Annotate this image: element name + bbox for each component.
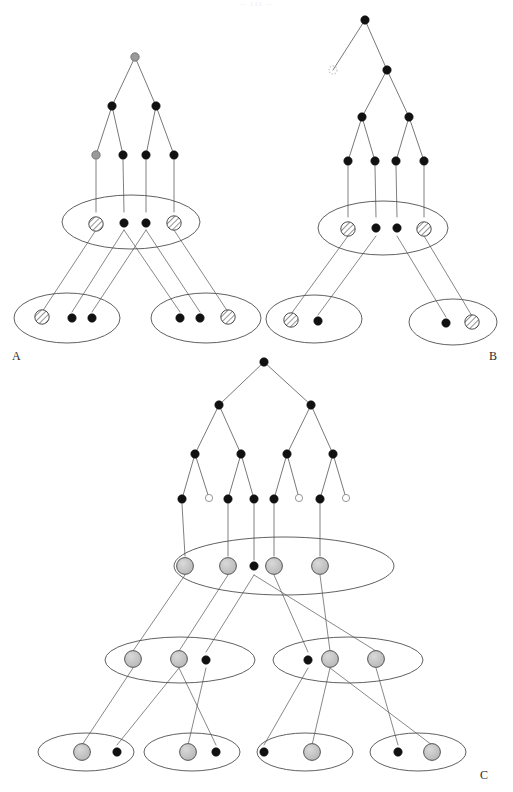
pc-bottom-node-7-circle-gray [424, 744, 441, 761]
pc-bottom-node-6-filled [394, 748, 402, 756]
pc-top-node-3-circle-gray [266, 558, 283, 575]
pa-tree-edge-1 [135, 57, 156, 106]
pc-tree-edge-12 [320, 454, 333, 499]
pc-tree-edge-6 [182, 454, 195, 499]
pc-mid-node-5-circle-gray [368, 651, 385, 668]
pb-tree-node-3-filled [405, 113, 413, 121]
pa-top-node-3-hatched [167, 216, 181, 230]
pa-drop-line-1 [123, 160, 124, 212]
pc-bottom-edge-7 [330, 668, 432, 745]
pa-bottom-node-0-hatched [35, 310, 49, 324]
figure-root: — 111 — A B C [0, 0, 513, 792]
pc-tree-edge-11 [287, 454, 299, 498]
pc-tree-l3-3-filled [329, 450, 337, 458]
pa-bottom-node-5-hatched [221, 310, 235, 324]
pc-tree-leaf-7-open [342, 494, 349, 501]
pc-drop-line-0 [182, 504, 185, 556]
pc-bottom-ellipse-3 [370, 733, 466, 771]
pc-tree-leaf-0-filled [178, 495, 186, 503]
pb-drop-line-1 [375, 166, 376, 217]
pc-mid-edge-4 [320, 575, 330, 651]
pa-cross-edge-5 [174, 230, 228, 312]
pa-tree-leaf-1-filled [119, 151, 127, 159]
pc-mid-node-1-circle-gray [171, 651, 188, 668]
pc-top-node-2-filled [250, 562, 258, 570]
pb-tree-root-filled [361, 16, 369, 24]
pc-mid-node-0-circle-gray [125, 651, 142, 668]
pa-bottom-node-1-filled [68, 314, 76, 322]
pb-top-node-2-filled [393, 224, 401, 232]
pb-tree-node-1-filled [383, 66, 391, 74]
pc-tree-l3-1-filled [237, 450, 245, 458]
pc-mid-edge-2 [206, 575, 254, 652]
pa-cross-edge-3 [124, 230, 180, 312]
pb-top-node-1-filled [372, 224, 380, 232]
pa-top-node-0-hatched [89, 217, 103, 231]
pc-tree-l3-0-filled [191, 450, 199, 458]
pc-top-node-4-circle-gray [312, 558, 329, 575]
pc-tree-root-filled [260, 358, 268, 366]
page-header-fragment: — 111 — [0, 0, 513, 11]
pa-tree-leaf-3-filled [170, 151, 178, 159]
pa-bottom-ellipse-1 [151, 293, 261, 343]
pc-mid-ellipse-1 [273, 637, 423, 683]
pc-bottom-edge-1 [117, 668, 179, 745]
pc-mid-edge-0 [133, 575, 185, 651]
pa-tree-l2-1-filled [152, 102, 160, 110]
pb-bottom-node-3-hatched [465, 315, 479, 329]
pb-tree-leaf-3-filled [420, 157, 428, 165]
pb-cross-edge-1 [318, 236, 376, 315]
pb-top-node-3-hatched [417, 222, 431, 236]
pa-top-node-2-filled [142, 219, 150, 227]
panel-label-b: B [489, 349, 498, 364]
pb-cross-edge-2 [397, 236, 446, 317]
pc-top-node-1-circle-gray [220, 558, 237, 575]
pc-tree-leaf-1-open [205, 494, 212, 501]
pa-top-node-1-filled [120, 219, 128, 227]
pa-cross-edge-2 [92, 230, 146, 312]
pc-bottom-node-0-circle-gray [74, 744, 91, 761]
pa-tree-edge-2 [96, 106, 112, 155]
pc-bottom-node-4-filled [260, 748, 268, 756]
pa-tree-edge-0 [112, 57, 135, 106]
pa-tree-leaf-0-gray [92, 151, 100, 159]
diagram-canvas [0, 0, 513, 792]
pc-bottom-node-1-filled [113, 748, 121, 756]
pc-tree-edge-3 [219, 405, 241, 454]
pc-tree-leaf-2-filled [224, 495, 232, 503]
pc-tree-edge-13 [333, 454, 346, 498]
pb-bottom-node-1-filled [314, 317, 322, 325]
pb-tree-leaf-0-filled [344, 157, 352, 165]
pb-tree-node-2-filled [358, 113, 366, 121]
pc-mid-edge-1 [179, 575, 228, 651]
panel-a [14, 53, 261, 343]
pa-cross-edge-1 [72, 230, 124, 312]
pc-bottom-node-2-circle-gray [180, 744, 197, 761]
pc-tree-leaf-6-filled [316, 495, 324, 503]
pc-bottom-node-5-circle-gray [304, 744, 321, 761]
pc-top-node-0-circle-gray [177, 558, 194, 575]
pb-bottom-ellipse-1 [409, 299, 497, 345]
pc-tree-edge-7 [195, 454, 209, 498]
panel-label-c: C [480, 768, 489, 783]
pa-bottom-node-2-filled [88, 314, 96, 322]
pc-tree-l3-2-filled [283, 450, 291, 458]
pa-tree-l2-0-filled [108, 102, 116, 110]
pb-tree-edge-7 [409, 117, 424, 161]
pb-tree-leaf-2-filled [392, 157, 400, 165]
pb-tree-edge-5 [362, 117, 375, 161]
pc-mid-node-2-filled [202, 656, 210, 664]
pa-bottom-ellipse-0 [14, 293, 120, 343]
pc-tree-edge-4 [287, 405, 311, 454]
pa-bottom-node-3-filled [176, 314, 184, 322]
pb-tree-leaf-1-filled [371, 157, 379, 165]
pc-tree-edge-10 [274, 454, 287, 499]
pb-tree-edge-0 [333, 20, 365, 70]
pb-cross-edge-3 [424, 236, 472, 316]
pc-tree-l2-1-filled [307, 401, 315, 409]
pa-bottom-node-4-filled [196, 314, 204, 322]
pc-tree-edge-0 [219, 362, 264, 405]
pb-top-node-0-hatched [341, 222, 355, 236]
pc-tree-edge-2 [195, 405, 219, 454]
pa-tree-edge-3 [112, 106, 123, 155]
